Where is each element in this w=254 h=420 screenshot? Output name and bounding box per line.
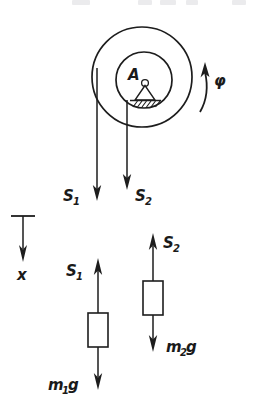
- rotation-indicator-group: φ: [200, 62, 226, 112]
- ground-hatching-icon: [133, 101, 160, 107]
- rotation-angle-label-phi: φ: [214, 72, 226, 90]
- pulley-outer-circle: [92, 27, 192, 127]
- rotation-arc-arrow-icon: [200, 72, 207, 112]
- rope-s2-top-group: S 2: [123, 100, 152, 207]
- pulley-group: A: [92, 27, 192, 127]
- x-axis-indicator-group: x: [11, 216, 35, 284]
- pivot-triangle-icon: [135, 86, 155, 101]
- x-axis-label: x: [16, 266, 28, 284]
- free-body-mass-2-group: S 2 m 2 g: [143, 233, 197, 358]
- force-label-s1-bottom-subscript: 1: [76, 271, 83, 282]
- weight-label-m2g-tail: g: [186, 338, 197, 356]
- mass-1-body-box: [88, 313, 108, 347]
- mass-2-body-box: [143, 281, 163, 315]
- force-label-s1-top-subscript: 1: [73, 196, 80, 207]
- support-label-A: A: [127, 66, 140, 84]
- physics-diagram: A φ S 1 S 2 x: [0, 0, 254, 420]
- force-label-s2-top-subscript: 2: [145, 196, 152, 207]
- diagram-canvas: A φ S 1 S 2 x: [0, 0, 254, 420]
- free-body-mass-1-group: S 1 m 1 g: [48, 258, 108, 396]
- force-label-s2-bottom-subscript: 2: [173, 243, 180, 254]
- weight-label-m1g-tail: g: [68, 376, 79, 394]
- rope-s1-top-group: S 1: [63, 68, 101, 207]
